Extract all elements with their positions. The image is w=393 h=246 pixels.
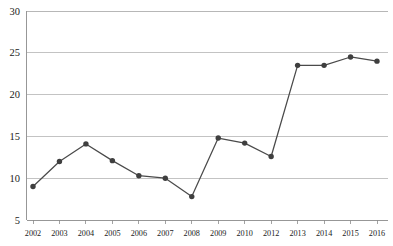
data-point-2012: [268, 154, 273, 159]
data-point-2010: [242, 140, 247, 145]
y-tick-label-30: 30: [10, 6, 21, 17]
x-tick-label-2015: 2015: [342, 229, 358, 238]
x-tick-label-2003: 2003: [51, 229, 67, 238]
data-point-2004: [83, 141, 88, 146]
x-tick-label-2008: 2008: [184, 229, 200, 238]
y-tick-label-20: 20: [10, 89, 21, 100]
x-tick-label-2013: 2013: [289, 229, 305, 238]
x-tick-label-2010: 2010: [237, 229, 253, 238]
x-tick-label-2012: 2012: [263, 229, 279, 238]
data-point-2006: [136, 173, 141, 178]
y-tick-label-15: 15: [10, 131, 21, 142]
data-point-2007: [163, 176, 168, 181]
data-point-2015: [348, 54, 353, 59]
x-tick-label-2016: 2016: [369, 229, 385, 238]
y-tick-label-5: 5: [15, 215, 20, 226]
data-point-2008: [189, 194, 194, 199]
x-tick-label-2002: 2002: [25, 229, 41, 238]
chart-canvas: 51015202530 2002200320042005200620072008…: [0, 0, 393, 246]
x-tick-label-2005: 2005: [104, 229, 120, 238]
y-tick-label-25: 25: [10, 47, 21, 58]
line-chart: 51015202530 2002200320042005200620072008…: [0, 0, 393, 246]
chart-background: [0, 0, 393, 246]
x-tick-label-2009: 2009: [210, 229, 226, 238]
data-point-2002: [30, 184, 35, 189]
y-tick-label-10: 10: [10, 173, 21, 184]
data-point-2009: [216, 135, 221, 140]
data-point-2016: [374, 58, 379, 63]
data-point-2003: [57, 159, 62, 164]
data-point-2014: [321, 63, 326, 68]
x-tick-label-2007: 2007: [157, 229, 173, 238]
data-point-2005: [110, 158, 115, 163]
x-tick-label-2006: 2006: [131, 229, 147, 238]
data-point-2013: [295, 63, 300, 68]
x-tick-label-2004: 2004: [78, 229, 94, 238]
x-tick-label-2014: 2014: [316, 229, 332, 238]
